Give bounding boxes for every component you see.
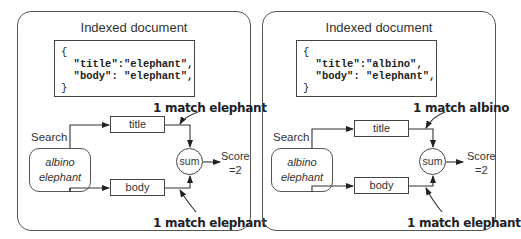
body-to-sum-arrow	[409, 176, 433, 186]
title-to-sum-arrow	[165, 125, 190, 147]
title-match-pointer	[180, 112, 198, 124]
body-match-pointer	[426, 188, 442, 212]
search-to-title-arrow	[312, 129, 353, 148]
search-to-body-arrow	[312, 186, 353, 192]
body-to-sum-arrow	[165, 176, 190, 188]
title-match-pointer	[426, 112, 445, 128]
search-to-body-arrow	[70, 188, 109, 192]
title-to-sum-arrow	[409, 129, 433, 147]
search-to-title-arrow	[70, 125, 109, 148]
body-match-pointer	[180, 190, 196, 212]
